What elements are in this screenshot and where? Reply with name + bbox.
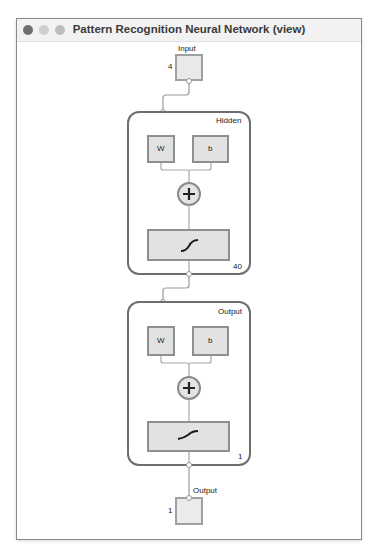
port-icon bbox=[187, 496, 192, 501]
output-bias-label: b bbox=[208, 336, 212, 345]
input-block[interactable] bbox=[176, 55, 202, 80]
port-icon bbox=[187, 79, 192, 84]
hidden-layer-size: 40 bbox=[233, 262, 242, 271]
input-size: 4 bbox=[168, 62, 172, 71]
output-layer-title: Output bbox=[218, 307, 242, 316]
hidden-layer-title: Hidden bbox=[216, 116, 241, 125]
output-layer-size: 1 bbox=[238, 452, 242, 461]
output-size: 1 bbox=[168, 506, 172, 515]
output-label: Output bbox=[193, 486, 217, 495]
output-weight-label: W bbox=[157, 336, 165, 345]
network-diagram bbox=[0, 0, 378, 554]
port-icon bbox=[187, 463, 192, 468]
hidden-weight-label: W bbox=[157, 144, 165, 153]
hidden-bias-label: b bbox=[208, 144, 212, 153]
output-activation-block[interactable] bbox=[148, 422, 229, 451]
output-block[interactable] bbox=[176, 498, 202, 524]
input-label: Input bbox=[178, 44, 196, 53]
port-icon bbox=[187, 272, 192, 277]
